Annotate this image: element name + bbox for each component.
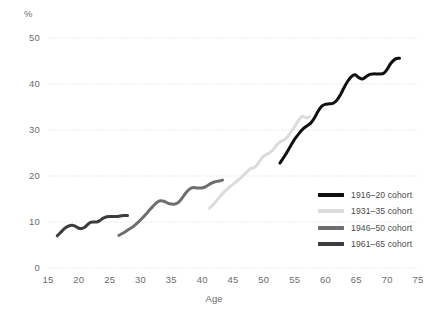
legend-swatch-icon: [318, 193, 344, 197]
y-tick-label: 0: [16, 262, 40, 273]
x-tick-label: 35: [158, 274, 184, 285]
x-tick-label: 55: [282, 274, 308, 285]
chart-legend: 1916–20 cohort1931–35 cohort1946–50 coho…: [318, 189, 412, 250]
y-tick-label: 30: [16, 124, 40, 135]
legend-label: 1931–35 cohort: [351, 206, 412, 216]
x-tick-label: 15: [35, 274, 61, 285]
y-tick-label: 20: [16, 170, 40, 181]
plot-area: [0, 0, 428, 319]
x-tick-label: 30: [128, 274, 154, 285]
legend-item[interactable]: 1916–20 cohort: [318, 189, 412, 200]
series-line-1: [280, 58, 400, 163]
x-tick-label: 70: [374, 274, 400, 285]
x-tick-label: 40: [189, 274, 215, 285]
legend-label: 1946–50 cohort: [351, 223, 412, 233]
series-line-3: [119, 180, 223, 235]
x-tick-label: 60: [313, 274, 339, 285]
legend-swatch-icon: [318, 242, 344, 246]
chart-container: % 01020304050 15202530354045505560657075…: [0, 0, 428, 319]
legend-item[interactable]: 1931–35 cohort: [318, 206, 412, 217]
legend-swatch-icon: [318, 226, 344, 230]
y-tick-label: 10: [16, 216, 40, 227]
x-tick-label: 50: [251, 274, 277, 285]
legend-item[interactable]: 1961–65 cohort: [318, 239, 412, 250]
x-tick-label: 45: [220, 274, 246, 285]
legend-item[interactable]: 1946–50 cohort: [318, 222, 412, 233]
legend-swatch-icon: [318, 209, 344, 213]
x-tick-label: 65: [343, 274, 369, 285]
legend-label: 1961–65 cohort: [351, 239, 412, 249]
x-tick-label: 75: [405, 274, 428, 285]
series-line-4: [57, 216, 127, 236]
x-tick-label: 20: [66, 274, 92, 285]
y-tick-label: 40: [16, 78, 40, 89]
y-tick-label: 50: [16, 32, 40, 43]
x-axis-title: Age: [199, 293, 229, 304]
x-tick-label: 25: [97, 274, 123, 285]
legend-label: 1916–20 cohort: [351, 190, 412, 200]
